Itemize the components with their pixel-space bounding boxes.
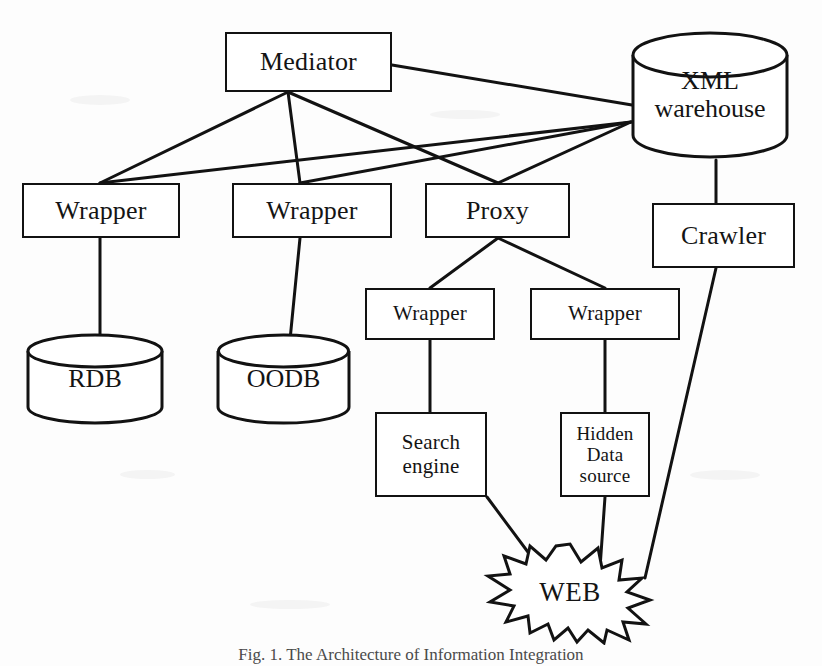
node-hidden-data-source[interactable]: Hidden Data source bbox=[560, 412, 650, 497]
node-proxy-label: Proxy bbox=[466, 197, 529, 224]
edge-proxy-wrapper-hidden bbox=[498, 238, 605, 288]
node-hidden-data-source-label: Hidden Data source bbox=[576, 423, 633, 487]
node-oodb[interactable]: OODB bbox=[215, 333, 352, 425]
node-xml-warehouse[interactable]: XML warehouse bbox=[630, 30, 790, 160]
node-rdb[interactable]: RDB bbox=[25, 333, 165, 425]
edge-mediator-wrapper-rdb bbox=[100, 92, 288, 183]
node-proxy[interactable]: Proxy bbox=[425, 183, 570, 238]
node-web-label: WEB bbox=[539, 577, 601, 608]
node-search-engine-label: Search engine bbox=[402, 431, 460, 478]
figure-caption: Fig. 1. The Architecture of Information … bbox=[0, 645, 822, 665]
node-search-engine[interactable]: Search engine bbox=[375, 412, 487, 497]
node-wrapper-search-label: Wrapper bbox=[393, 302, 467, 326]
node-crawler[interactable]: Crawler bbox=[652, 203, 795, 268]
edge-xmlwarehouse-wrapper-oodb bbox=[300, 122, 631, 183]
edge-mediator-wrapper-oodb bbox=[288, 92, 300, 183]
edge-wrapper-oodb-oodb bbox=[290, 238, 300, 340]
node-mediator-label: Mediator bbox=[260, 48, 357, 75]
node-crawler-label: Crawler bbox=[681, 222, 766, 249]
node-wrapper-hidden-label: Wrapper bbox=[568, 302, 642, 326]
edge-xmlwarehouse-proxy bbox=[498, 122, 631, 183]
node-oodb-label: OODB bbox=[247, 365, 321, 393]
node-wrapper-hidden[interactable]: Wrapper bbox=[530, 288, 680, 340]
node-wrapper-oodb-label: Wrapper bbox=[266, 197, 357, 224]
node-wrapper-rdb[interactable]: Wrapper bbox=[22, 183, 180, 238]
edge-mediator-xmlwarehouse bbox=[392, 65, 632, 105]
node-wrapper-oodb[interactable]: Wrapper bbox=[232, 183, 392, 238]
figure-canvas: Mediator XML warehouse Wrapper Wrapper P… bbox=[0, 0, 822, 666]
node-web[interactable]: WEB bbox=[480, 540, 660, 645]
edge-xmlwarehouse-wrapper-rdb bbox=[100, 122, 631, 183]
node-rdb-label: RDB bbox=[68, 365, 121, 393]
node-wrapper-search[interactable]: Wrapper bbox=[365, 288, 495, 340]
node-wrapper-rdb-label: Wrapper bbox=[55, 197, 146, 224]
node-xml-warehouse-label: XML warehouse bbox=[654, 67, 765, 123]
node-mediator[interactable]: Mediator bbox=[225, 32, 392, 92]
edge-mediator-proxy bbox=[288, 92, 498, 183]
edge-proxy-wrapper-search bbox=[430, 238, 498, 288]
